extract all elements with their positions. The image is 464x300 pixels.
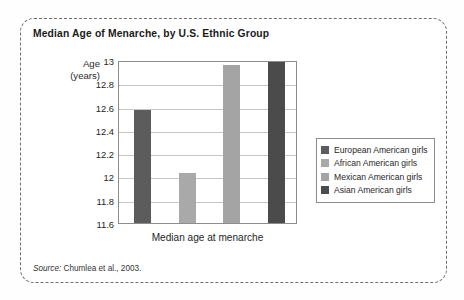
source-note-label: Source: [33,264,61,273]
bar [134,110,151,223]
x-axis-label: Median age at menarche [118,232,297,243]
y-axis-tick-label: 12.4 [54,125,114,136]
legend-item: Mexican American girls [321,170,428,184]
y-axis-tick-label: 13 [54,56,114,67]
legend-item: Asian American girls [321,184,428,198]
y-axis-tick-label: 11.8 [54,195,114,206]
legend-swatch-icon [321,173,329,181]
plot-area [118,61,297,224]
legend-item: European American girls [321,143,428,157]
chart-legend: European American girlsAfrican American … [316,138,435,203]
bar [268,61,285,223]
legend-item-label: Asian American girls [334,185,412,195]
legend-item-label: African American girls [334,158,417,168]
bar [179,173,196,223]
chart-title: Median Age of Menarche, by U.S. Ethnic G… [33,28,269,39]
y-axis-tick-labels: 1312.812.612.412.21211.811.6 [52,61,114,224]
y-axis-tick-label: 12.6 [54,102,114,113]
source-note: Source: Chumlea et al., 2003. [33,264,141,273]
y-axis-tick-label: 12 [54,172,114,183]
y-axis-tick-label: 11.6 [54,219,114,230]
legend-item-label: Mexican American girls [334,172,422,182]
legend-swatch-icon [321,146,329,154]
legend-item-label: European American girls [334,145,428,155]
y-axis-tick-label: 12.2 [54,149,114,160]
bar [223,65,240,223]
legend-item: African American girls [321,157,428,171]
figure-root: Median Age of Menarche, by U.S. Ethnic G… [0,0,464,300]
source-note-text: Chumlea et al., 2003. [64,264,142,273]
y-axis-tick-label: 12.8 [54,79,114,90]
legend-swatch-icon [321,186,329,194]
legend-swatch-icon [321,159,329,167]
